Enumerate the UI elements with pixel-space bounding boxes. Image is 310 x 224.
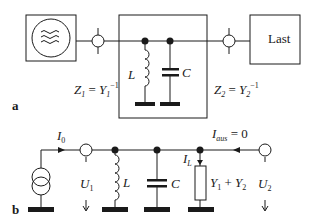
generator-block [26,15,76,61]
inductor-a [145,41,149,103]
il-label: IL [182,151,192,168]
inductor-label-b: L [122,175,130,190]
arrow-right-icon [58,147,65,153]
junction-node [167,38,174,45]
load-admittance [195,150,206,207]
panel-label-a: a [12,98,19,113]
ground-icon [188,207,214,212]
i0-label: I0 [56,128,65,145]
port-terminal-2 [223,28,235,54]
terminal-u2 [259,144,271,156]
junction-node [112,147,119,154]
terminal-u1 [80,144,92,156]
arrow-down-icon [197,160,203,165]
z2-equation: Z2 = Y2−1 [214,81,259,99]
u1-label: U1 [80,176,93,193]
ground-icon [144,207,170,212]
current-source [32,150,50,207]
load-label: Last [268,31,291,46]
ac-wave-icon [41,31,59,44]
ground-icon [102,207,128,212]
panel-label-b: b [12,202,19,217]
capacitor-label-a: C [182,65,191,80]
u2-label: U2 [258,176,271,193]
inductor-b [115,150,119,207]
z1-equation: Z1 = Y1−1 [74,81,119,99]
capacitor-label-b: C [171,176,180,191]
circuit-diagram: Last L C Z1 = Y1−1 Z2 = Y2−1 a I0 U1 L C… [0,0,310,224]
load-admittance-label: Y1 + Y2 [210,175,246,192]
junction-node [142,38,149,45]
ground-icon [28,207,54,212]
capacitor-a [162,41,179,103]
port-terminal-1 [92,28,104,54]
junction-node [154,147,161,154]
ground-icon [160,102,180,106]
inductor-label-a: L [127,67,135,82]
capacitor-b [147,150,167,207]
junction-node [197,147,204,154]
ground-icon [135,102,155,106]
arrow-left-icon [233,147,240,153]
iaus-label: Iaus = 0 [211,126,248,143]
